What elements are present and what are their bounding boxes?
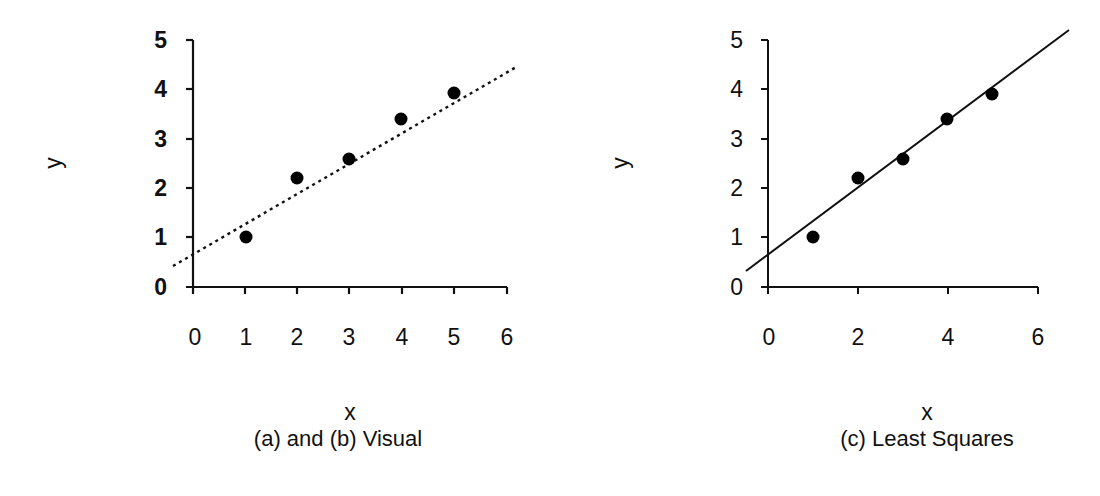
x-tick-label: 2 [291,324,304,350]
x-tick-label: 0 [189,324,202,350]
y-tick-label: 5 [730,27,743,53]
chart-caption: (a) and (b) Visual [254,426,422,451]
x-tick-label: 2 [852,324,865,350]
data-point [395,113,408,126]
y-tick-label: 1 [730,224,743,250]
data-point [941,113,954,126]
least-squares-line [746,30,1069,271]
y-tick-labels: 5 4 3 2 1 0 [730,27,743,300]
y-tick-label: 3 [730,126,743,152]
data-points [240,87,461,244]
x-tick-label: 3 [343,324,356,350]
y-axis-title: y [607,157,633,169]
x-tick-label: 6 [501,324,514,350]
x-tick-label: 1 [240,324,253,350]
axes [186,40,507,294]
x-tick-labels: 0 2 4 6 [763,324,1045,350]
x-tick-label: 5 [448,324,461,350]
y-tick-labels: 5 4 3 2 1 0 [154,27,167,300]
data-points [807,88,999,244]
x-tick-label: 4 [942,324,955,350]
x-tick-label: 0 [763,324,776,350]
y-axis-title: y [40,157,66,169]
y-tick-label: 2 [154,175,167,201]
y-tick-label: 1 [154,224,167,250]
x-axis-title: x [344,399,356,425]
data-point [240,231,253,244]
data-point [343,153,356,166]
data-point [986,88,999,101]
data-point [291,172,304,185]
y-tick-label: 4 [154,76,167,102]
x-axis-title: x [921,399,933,425]
y-tick-label: 3 [154,126,167,152]
x-tick-labels: 0 1 2 3 4 5 6 [189,324,514,350]
y-tick-label: 4 [730,76,743,102]
data-point [807,231,820,244]
y-tick-label: 5 [154,27,167,53]
chart-least-squares: y 5 4 3 2 1 0 0 2 4 6 [607,27,1069,451]
data-point [448,87,461,100]
chart-caption: (c) Least Squares [840,426,1014,451]
y-tick-label: 0 [730,274,743,300]
y-tick-label: 0 [154,274,167,300]
visual-fit-line [173,66,518,266]
x-tick-label: 6 [1032,324,1045,350]
axes [761,40,1038,294]
chart-visual-fit: y 5 4 3 2 1 0 [40,27,518,451]
x-tick-label: 4 [396,324,409,350]
data-point [852,172,865,185]
y-tick-label: 2 [730,175,743,201]
data-point [897,153,910,166]
figure: y 5 4 3 2 1 0 [0,0,1100,496]
